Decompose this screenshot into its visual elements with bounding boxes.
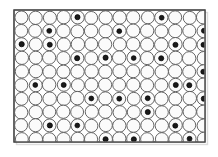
host-atom-circle <box>42 78 56 92</box>
host-atom-circle <box>127 92 140 105</box>
interstitial-atom-dot <box>187 83 192 88</box>
host-atom-circle <box>155 65 168 78</box>
host-atom-circle <box>57 92 70 105</box>
host-atom-circle <box>182 52 195 65</box>
host-atom-circle <box>99 92 112 105</box>
host-atom-circle <box>183 11 196 24</box>
interstitial-atom-dot <box>159 56 164 61</box>
host-atom-circle <box>71 91 85 105</box>
host-atom-circle <box>183 24 196 37</box>
host-atom-circle <box>155 119 168 132</box>
host-atom-circle <box>43 65 56 78</box>
host-atom-circle <box>155 25 168 38</box>
host-atom-circle <box>99 65 112 78</box>
host-atom-circle <box>15 119 28 132</box>
host-atom-circle <box>183 119 196 132</box>
host-atom-circle <box>43 11 56 24</box>
host-atom-circle <box>15 79 28 92</box>
host-atom-circle <box>113 11 126 24</box>
interstitial-atom-dot <box>173 123 178 128</box>
interstitial-atom-dot <box>47 42 52 47</box>
interstitial-atom-dot <box>145 96 150 101</box>
host-atom-circle <box>99 105 112 118</box>
host-atom-circle <box>85 11 98 24</box>
host-atom-circle <box>141 79 154 92</box>
host-atom-circle <box>169 51 182 64</box>
host-atom-circle <box>183 38 196 51</box>
host-atom-circle <box>141 51 154 64</box>
host-atom-circle <box>15 24 28 37</box>
interstitial-atom-dot <box>75 15 80 20</box>
interstitial-atom-dot <box>117 29 122 34</box>
host-atom-circle <box>85 52 98 65</box>
host-atom-circle <box>15 51 28 64</box>
host-atom-circle <box>29 24 42 37</box>
host-atom-circle <box>99 24 113 38</box>
host-atom-circle <box>183 91 197 105</box>
interstitial-atom-dot <box>103 137 108 142</box>
interstitial-atom-dot <box>33 83 38 88</box>
host-atom-circle <box>127 11 140 24</box>
host-atom-circle <box>85 119 98 132</box>
host-atom-circle <box>140 24 153 37</box>
host-atom-circle <box>15 106 28 119</box>
interstitial-atom-dot <box>173 82 178 87</box>
interstitial-atom-dot <box>131 56 136 61</box>
interstitial-atom-dot <box>145 109 150 114</box>
host-atom-circle <box>169 11 182 24</box>
host-atom-circle <box>85 65 99 79</box>
interstitial-atom-dot <box>19 42 24 47</box>
interstitial-atom-dot <box>89 96 94 101</box>
host-atom-circle <box>141 65 154 78</box>
host-atom-circle <box>126 38 139 51</box>
host-atom-circle <box>85 78 98 91</box>
host-atom-circle <box>169 24 182 37</box>
host-atom-circle <box>99 38 112 51</box>
figure-root: Interstitial solid solution lattice diag… <box>0 0 218 157</box>
host-atom-circle <box>84 24 97 37</box>
host-atom-circle <box>112 51 126 65</box>
interstitial-atom-dot <box>61 82 66 87</box>
host-atom-circle <box>29 38 42 51</box>
host-atom-circle <box>57 52 70 65</box>
host-atom-circle <box>71 65 84 78</box>
lattice-diagram: Interstitial solid solution lattice diag… <box>0 0 218 157</box>
host-atom-circle <box>141 11 154 24</box>
host-atom-circle <box>113 119 126 132</box>
host-atom-circle <box>15 11 28 24</box>
host-atom-circle <box>43 92 57 106</box>
host-atom-circle <box>169 92 182 105</box>
host-atom-circle <box>85 38 98 51</box>
host-atom-circle <box>29 105 42 118</box>
interstitial-atom-dot <box>131 137 136 142</box>
host-atom-circle <box>71 38 84 51</box>
host-atom-circle <box>57 105 70 118</box>
host-atom-circle <box>15 92 28 105</box>
host-atom-circle <box>127 119 140 132</box>
host-atom-circle <box>29 119 42 132</box>
host-atom-circle <box>127 24 140 37</box>
interstitial-atom-dot <box>75 123 80 128</box>
interstitial-atom-dot <box>187 136 192 141</box>
host-atom-circle <box>127 78 140 91</box>
host-atom-circle <box>99 119 112 132</box>
host-atom-circle <box>71 25 84 38</box>
host-atom-circle <box>127 65 140 78</box>
host-atom-circle <box>127 106 140 119</box>
host-atom-circle <box>141 38 154 51</box>
host-atom-circle <box>71 106 84 119</box>
host-atom-circle <box>113 38 126 51</box>
host-atom-circle <box>57 11 70 24</box>
host-atom-circle <box>29 64 42 77</box>
host-atom-circle <box>113 64 127 78</box>
host-atom-circle <box>29 11 42 24</box>
interstitial-atom-dot <box>117 96 122 101</box>
host-atom-circle <box>71 79 84 92</box>
host-atom-circle <box>57 38 70 51</box>
host-atom-circle <box>57 24 70 37</box>
host-atom-circle <box>155 92 168 105</box>
host-atom-circle <box>155 79 168 92</box>
host-atom-circle <box>168 65 181 78</box>
host-atom-circle <box>29 92 42 105</box>
host-atom-circle <box>113 106 126 119</box>
